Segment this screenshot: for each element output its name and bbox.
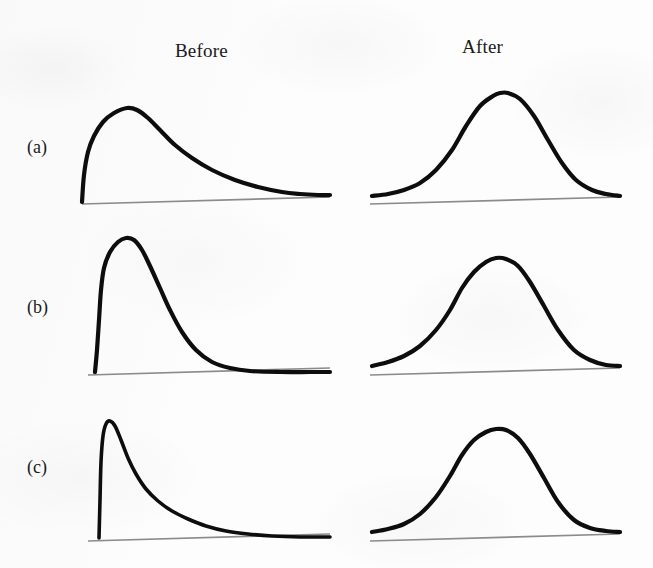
distribution-curve-b-before <box>95 238 330 372</box>
distribution-curve-c-after <box>372 429 620 532</box>
axis-baseline <box>370 197 620 204</box>
axis-baseline <box>370 368 620 375</box>
distribution-curve-b-after <box>372 258 620 366</box>
axis-baseline <box>370 534 620 541</box>
axis-baseline <box>82 197 330 204</box>
distribution-plots-svg <box>0 0 653 568</box>
curves-group <box>82 92 620 538</box>
distribution-curve-c-before <box>99 421 330 538</box>
distribution-curve-a-before <box>82 108 330 202</box>
plots-container <box>0 0 653 568</box>
distribution-curve-a-after <box>372 92 620 196</box>
baselines-group <box>82 197 620 541</box>
figure-root: Before After (a) (b) (c) <box>0 0 653 568</box>
